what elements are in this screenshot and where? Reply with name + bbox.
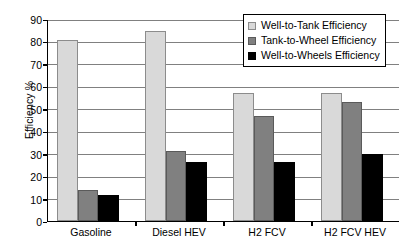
- y-tick-mark: [43, 132, 47, 134]
- y-tick-mark: [43, 199, 47, 201]
- bar: [274, 162, 295, 221]
- y-tick-label: 0: [14, 217, 42, 227]
- legend-label-well-to-wheels: Well-to-Wheels Efficiency: [261, 50, 380, 61]
- y-tick-mark: [43, 87, 47, 89]
- x-tick-mark: [223, 222, 225, 226]
- y-tick-mark: [43, 109, 47, 111]
- legend-swatch-well-to-wheels: [248, 52, 256, 60]
- y-tick-label: 60: [14, 82, 42, 92]
- legend-item: Well-to-Wheels Efficiency: [248, 48, 380, 63]
- legend: Well-to-Tank Efficiency Tank-to-Wheel Ef…: [243, 14, 386, 67]
- x-tick-mark: [311, 222, 313, 226]
- bar: [78, 190, 99, 221]
- legend-item: Well-to-Tank Efficiency: [248, 18, 380, 33]
- y-tick-label: 30: [14, 150, 42, 160]
- y-tick-label: 20: [14, 172, 42, 182]
- bar: [145, 31, 166, 221]
- bar: [186, 162, 207, 221]
- y-tick-label: 40: [14, 127, 42, 137]
- x-tick-label: H2 FCV: [223, 226, 311, 238]
- bar: [57, 40, 78, 221]
- legend-label-well-to-tank: Well-to-Tank Efficiency: [261, 20, 367, 31]
- y-tick-mark: [43, 154, 47, 156]
- y-tick-label: 80: [14, 37, 42, 47]
- y-tick-label: 10: [14, 195, 42, 205]
- bar: [362, 154, 383, 221]
- bar: [342, 102, 363, 221]
- x-tick-label: Diesel HEV: [135, 226, 223, 238]
- y-tick-label: 70: [14, 60, 42, 70]
- y-tick-label: 90: [14, 15, 42, 25]
- x-tick-label: H2 FCV HEV: [311, 226, 399, 238]
- y-tick-mark: [43, 177, 47, 179]
- legend-label-tank-to-wheel: Tank-to-Wheel Efficiency: [261, 35, 376, 46]
- bar: [233, 93, 254, 221]
- y-axis: Efficiency %: [15, 20, 43, 222]
- y-tick-mark: [43, 42, 47, 44]
- x-tick-labels: GasolineDiesel HEVH2 FCVH2 FCV HEV: [47, 226, 399, 244]
- bar: [166, 151, 187, 221]
- y-tick-mark: [43, 64, 47, 66]
- bar: [254, 116, 275, 221]
- legend-swatch-well-to-tank: [248, 22, 256, 30]
- x-tick-mark: [135, 222, 137, 226]
- bar: [98, 195, 119, 221]
- legend-item: Tank-to-Wheel Efficiency: [248, 33, 380, 48]
- bar-chart: Efficiency % 0102030405060708090 Gasolin…: [0, 0, 412, 251]
- y-tick-label: 50: [14, 105, 42, 115]
- y-tick-mark: [43, 222, 47, 224]
- x-tick-label: Gasoline: [47, 226, 135, 238]
- y-tick-mark: [43, 20, 47, 22]
- legend-swatch-tank-to-wheel: [248, 37, 256, 45]
- bar: [321, 93, 342, 221]
